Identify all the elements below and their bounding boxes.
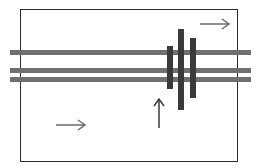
arrows-layer [0, 0, 266, 168]
arrow-top-right-icon [200, 19, 229, 29]
arrow-bottom-left-icon [56, 120, 85, 130]
arrow-up-icon [154, 99, 164, 128]
